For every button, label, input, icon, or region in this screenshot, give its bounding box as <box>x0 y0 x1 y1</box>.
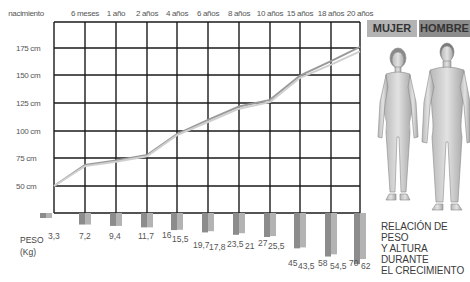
weight-label: 54,5 <box>330 261 347 271</box>
weight-label: 23,5 <box>227 239 244 249</box>
weight-label: 11,7 <box>138 231 154 241</box>
human-figures-illustration <box>370 42 470 212</box>
weight-label: 9,4 <box>109 231 121 241</box>
weight-label: 43,5 <box>298 261 315 271</box>
weight-bar-mujer <box>116 213 122 226</box>
peso-label-line1: PESO <box>20 234 44 246</box>
weight-label: 17,8 <box>209 242 226 252</box>
weight-bar-mujer <box>208 213 214 231</box>
weight-bar-hombre <box>264 213 270 237</box>
weight-bar-mujer <box>239 213 245 233</box>
weight-bar-mujer <box>300 213 306 247</box>
title-line2: Y ALTURA DURANTE <box>381 243 470 265</box>
weight-bar-mujer <box>147 213 153 227</box>
weight-bar-mujer <box>331 213 337 254</box>
weight-label: 27 <box>258 238 267 248</box>
legend-mujer: MUJER <box>367 20 417 37</box>
height-line-mujer <box>54 51 360 186</box>
weight-label: 19,7 <box>193 240 210 250</box>
chart-grid <box>54 22 360 213</box>
height-line-hombre <box>54 47 360 186</box>
weight-bar-mujer <box>46 213 52 218</box>
weight-bar-hombre <box>141 213 147 227</box>
legend-hombre: HOMBRE <box>419 20 470 37</box>
weight-bar-hombre <box>171 213 177 230</box>
title-line3: EL CRECIMIENTO <box>381 265 470 276</box>
peso-label-line2: (Kg) <box>20 246 44 258</box>
weight-label: 16 <box>162 230 171 240</box>
weight-label: 21 <box>245 241 254 251</box>
chart-title: RELACIÓN DE PESO Y ALTURA DURANTE EL CRE… <box>381 221 470 276</box>
weight-bar-hombre <box>79 213 85 225</box>
weight-label: 15,5 <box>172 234 189 244</box>
weight-bar-mujer <box>85 213 91 225</box>
weight-bar-hombre <box>40 213 46 218</box>
peso-axis-label: PESO (Kg) <box>20 234 44 258</box>
weight-bar-hombre <box>294 213 300 248</box>
weight-label: 70 <box>349 258 358 268</box>
title-line1: RELACIÓN DE PESO <box>381 221 470 243</box>
weight-bar-hombre <box>233 213 239 235</box>
weight-label: 62 <box>361 261 370 271</box>
weight-bar-mujer <box>177 213 183 230</box>
weight-label: 58 <box>318 258 327 268</box>
weight-bar-hombre <box>110 213 116 226</box>
weight-label: 7,2 <box>79 231 91 241</box>
weight-label: 3,3 <box>48 231 60 241</box>
weight-bar-hombre <box>202 213 208 232</box>
weight-bar-mujer <box>270 213 276 236</box>
male-figure-icon <box>422 43 470 210</box>
female-figure-icon <box>378 48 418 200</box>
weight-label: 45 <box>288 258 297 268</box>
weight-bar-mujer <box>360 213 366 259</box>
weight-bar-hombre <box>354 213 360 264</box>
weight-label: 25,5 <box>268 241 285 251</box>
weight-bar-hombre <box>325 213 331 257</box>
